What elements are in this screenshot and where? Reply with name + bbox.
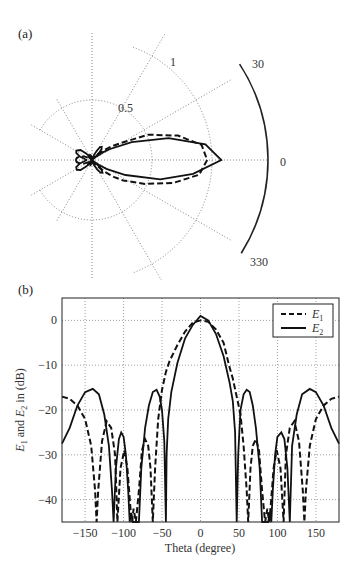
legend-e1-label: E1 bbox=[311, 307, 323, 323]
r-tick-half: 0.5 bbox=[118, 101, 133, 115]
y-tick-label: −10 bbox=[38, 358, 57, 372]
legend: E1 E2 bbox=[273, 304, 333, 337]
x-tick-labels: −150−100−50050100150 bbox=[73, 526, 325, 540]
cartesian-series-e1 bbox=[62, 320, 339, 522]
y-axis-label: E1 and E2 in (dB) bbox=[13, 368, 29, 452]
cartesian-grid bbox=[62, 298, 339, 522]
y-tick-label: −30 bbox=[38, 448, 57, 462]
x-tick-label: 150 bbox=[307, 526, 325, 540]
x-tick-label: 0 bbox=[198, 526, 204, 540]
x-tick-label: −50 bbox=[153, 526, 172, 540]
polar-plot: 0.5 1 30 0 330 bbox=[0, 0, 360, 280]
cartesian-series-e2 bbox=[62, 316, 339, 522]
plot-frame bbox=[62, 298, 339, 522]
x-tick-label: −150 bbox=[73, 526, 98, 540]
polar-series-e2 bbox=[76, 138, 221, 179]
outer-arc bbox=[240, 64, 268, 253]
y-tick-labels: 0−10−20−30−40 bbox=[38, 313, 57, 506]
x-tick-label: 100 bbox=[268, 526, 286, 540]
y-tick-label: −40 bbox=[38, 493, 57, 507]
x-tick-label: 50 bbox=[233, 526, 245, 540]
angle-label-30: 30 bbox=[252, 57, 264, 71]
r-tick-one: 1 bbox=[170, 55, 176, 69]
panel-b-label: (b) bbox=[18, 282, 33, 298]
polar-grid bbox=[22, 32, 268, 280]
x-tick-label: −100 bbox=[111, 526, 136, 540]
y-tick-label: −20 bbox=[38, 403, 57, 417]
legend-e2-label: E2 bbox=[311, 321, 323, 337]
x-axis-label: Theta (degree) bbox=[165, 541, 235, 555]
angle-label-330: 330 bbox=[250, 255, 268, 269]
y-tick-label: 0 bbox=[51, 313, 57, 327]
angle-label-0: 0 bbox=[280, 155, 286, 169]
